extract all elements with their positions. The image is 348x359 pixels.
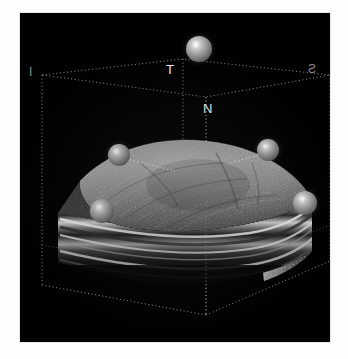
marker-left-lower[interactable]: [90, 199, 114, 223]
marker-apex[interactable]: [186, 36, 212, 62]
marker-right-lower[interactable]: [293, 191, 317, 215]
quadrant-label-inferior: I: [29, 65, 32, 79]
wire-top-face: [42, 59, 330, 97]
marker-right-upper[interactable]: [257, 139, 279, 161]
marker-left-upper[interactable]: [108, 144, 130, 166]
wire-edge-bottom-left: [42, 285, 206, 315]
quadrant-label-nasal: N: [203, 101, 212, 116]
figure-canvas: T N I S: [0, 0, 348, 359]
quadrant-label-superior: S: [308, 62, 316, 76]
oct-3d-viewport[interactable]: T N I S: [20, 13, 330, 342]
quadrant-label-temporal: T: [166, 62, 174, 77]
scene-graphics: T N I S: [20, 13, 330, 342]
